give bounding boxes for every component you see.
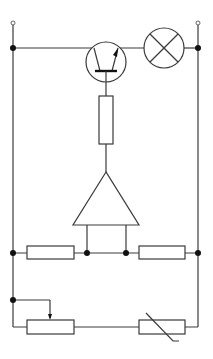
- lamp-icon: [144, 28, 184, 68]
- junction-node: [10, 297, 16, 303]
- circuit-diagram: [0, 0, 213, 359]
- junction-node: [123, 250, 129, 256]
- base-resistor-icon: [99, 96, 113, 144]
- junction-node: [195, 250, 201, 256]
- transistor-icon: [86, 42, 126, 96]
- bridge-resistor-right-icon: [139, 246, 185, 259]
- left-terminal-icon: [11, 21, 15, 25]
- junction-node: [10, 45, 16, 51]
- junction-node: [10, 250, 16, 256]
- thermistor-icon: [139, 313, 185, 341]
- bridge-resistor-left-icon: [27, 246, 74, 259]
- junction-node: [195, 45, 201, 51]
- junction-node: [84, 250, 90, 256]
- potentiometer-icon: [27, 320, 74, 334]
- amplifier-icon: [73, 172, 139, 225]
- wiper-arrow-icon: [48, 314, 52, 320]
- right-terminal-icon: [196, 21, 200, 25]
